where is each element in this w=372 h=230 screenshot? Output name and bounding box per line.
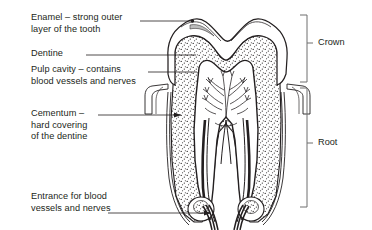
label-cementum: Cementum – hard covering of the dentine bbox=[31, 108, 121, 143]
label-pulp-cavity: Pulp cavity – contains blood vessels and… bbox=[31, 64, 149, 87]
label-dentine: Dentine bbox=[31, 48, 87, 60]
leader-enamel-dot bbox=[191, 19, 194, 22]
root-tip-openings bbox=[188, 197, 264, 230]
tooth-diagram: Enamel – strong outer layer of the tooth… bbox=[0, 0, 372, 230]
region-brackets bbox=[300, 15, 313, 207]
label-enamel: Enamel – strong outer layer of the tooth bbox=[31, 12, 139, 35]
dentine-layer bbox=[171, 36, 281, 222]
label-root: Root bbox=[318, 137, 337, 149]
label-entrance: Entrance for blood vessels and nerves bbox=[31, 191, 141, 214]
crown-bracket bbox=[300, 15, 307, 82]
label-crown: Crown bbox=[318, 37, 345, 49]
